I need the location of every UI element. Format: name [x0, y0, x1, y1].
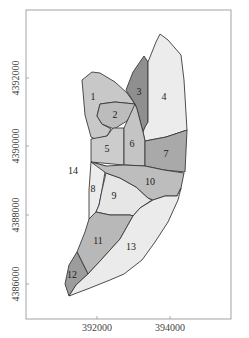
zone-label-12: 12 — [67, 269, 77, 280]
zone-label-6: 6 — [130, 138, 135, 149]
zone-label-7: 7 — [164, 148, 169, 159]
y-tick-label: 4388000 — [10, 198, 21, 233]
zones-layer — [65, 34, 187, 296]
zone-map: 1234567891011121314 392000394000 4392000… — [0, 0, 249, 338]
zone-label-9: 9 — [112, 190, 117, 201]
zone-label-5: 5 — [105, 143, 110, 154]
x-axis: 392000394000 — [82, 316, 185, 333]
y-tick-label: 4392000 — [10, 61, 21, 96]
zone-label-14: 14 — [68, 165, 78, 176]
y-tick-label: 4390000 — [10, 129, 21, 164]
zone-label-4: 4 — [162, 91, 167, 102]
zone-label-1: 1 — [91, 91, 96, 102]
zone-label-13: 13 — [126, 241, 136, 252]
zone-label-10: 10 — [145, 176, 155, 187]
zone-label-3: 3 — [137, 86, 142, 97]
zone-label-11: 11 — [93, 235, 103, 246]
zone-label-2: 2 — [113, 109, 118, 120]
zone-label-8: 8 — [91, 183, 96, 194]
x-tick-label: 392000 — [82, 322, 112, 333]
x-tick-label: 394000 — [155, 322, 185, 333]
zone-4[interactable] — [143, 34, 187, 141]
y-tick-label: 4386000 — [10, 267, 21, 302]
